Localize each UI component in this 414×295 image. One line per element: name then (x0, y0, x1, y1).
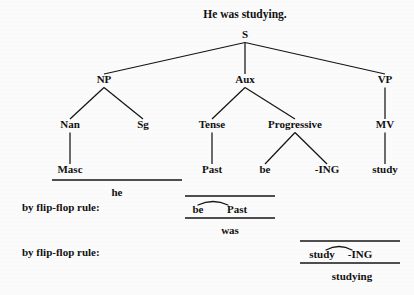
tree-node-np: NP (97, 73, 112, 85)
tree-branch-np-nan (70, 88, 104, 120)
tree-node-vp: VP (378, 73, 393, 85)
tree-node-progressive: Progressive (268, 118, 322, 130)
flip-flop-rule-label: by flip-flop rule: (22, 246, 100, 258)
tree-branch-aux-tense (212, 88, 245, 120)
tree-node-aux: Aux (235, 73, 255, 85)
tree-node-layer: SNPAuxVPNanSgTenseProgressiveMVMascPastb… (57, 28, 398, 175)
tree-node-s: S (242, 28, 248, 40)
derivation-term: Past (227, 203, 248, 215)
tree-node-ing: -ING (315, 163, 340, 175)
tree-node-mv: MV (376, 118, 394, 130)
derivation-term: study (309, 248, 335, 260)
derivation-he: he (52, 180, 182, 198)
tree-branch-np-sg (104, 88, 143, 120)
flip-flop-rule-label: by flip-flop rule: (22, 201, 100, 213)
derivation-term: be (193, 203, 204, 215)
tree-branch-s-vp (245, 43, 385, 75)
tree-branch-progressive-be (265, 133, 295, 165)
derivation-result: studying (332, 270, 373, 282)
tree-node-masc: Masc (57, 163, 82, 175)
tree-node-be: be (260, 163, 271, 175)
derivation-layer: heby flip-flop rule:bePastwasby flip-flo… (22, 180, 400, 282)
derivation-studying: by flip-flop rule:study-INGstudying (22, 241, 400, 282)
derivation-result: he (112, 186, 123, 198)
tree-node-past: Past (202, 163, 223, 175)
tree-branch-progressive-ing (295, 133, 327, 165)
tree-node-sg: Sg (137, 118, 149, 130)
derivation-was: by flip-flop rule:bePastwas (22, 196, 275, 236)
tree-edge-layer (70, 43, 385, 165)
tree-node-tense: Tense (199, 118, 226, 130)
tree-branch-s-np (104, 43, 245, 75)
sentence-title: He was studying. (203, 8, 287, 21)
tree-node-study: study (372, 163, 398, 175)
tree-node-nan: Nan (60, 118, 80, 130)
tree-branch-aux-progressive (245, 88, 295, 120)
syntax-tree-diagram: He was studying. SNPAuxVPNanSgTenseProgr… (0, 0, 414, 295)
derivation-result: was (221, 224, 239, 236)
derivation-term: -ING (348, 248, 373, 260)
